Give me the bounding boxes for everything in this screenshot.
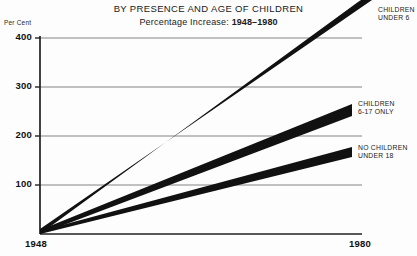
series-wedge-children-6-17-only: [40, 104, 352, 234]
series-wedge-no-children-under-18: [40, 147, 352, 234]
y-axis-tick-label-100: 100: [2, 178, 32, 189]
x-axis-tick-label-1948: 1948: [25, 238, 47, 249]
chart-container: BY PRESENCE AND AGE OF CHILDREN Percenta…: [0, 0, 417, 256]
series-label-children-6-17-only: CHILDREN 6-17 ONLY: [358, 100, 395, 117]
series-label-children-6-17-only-line1: CHILDREN: [358, 100, 395, 108]
y-axis-tick-label-300: 300: [2, 80, 32, 91]
series-label-children-6-17-only-line2: 6-17 ONLY: [358, 108, 395, 116]
series-label-children-under-6-line1: CHILDREN: [378, 6, 415, 14]
x-axis-tick-label-1980: 1980: [349, 238, 371, 249]
plot-area: [0, 0, 417, 256]
series-label-children-under-6-line2: UNDER 6: [378, 14, 415, 22]
series-label-no-children-under-18-line1: NO CHILDREN: [358, 144, 408, 152]
y-axis-tick-label-200: 200: [2, 129, 32, 140]
series-label-no-children-under-18: NO CHILDREN UNDER 18: [358, 144, 408, 161]
series-label-children-under-6: CHILDREN UNDER 6: [378, 6, 415, 23]
y-axis-tick-label-400: 400: [2, 31, 32, 42]
series-label-no-children-under-18-line2: UNDER 18: [358, 152, 408, 160]
